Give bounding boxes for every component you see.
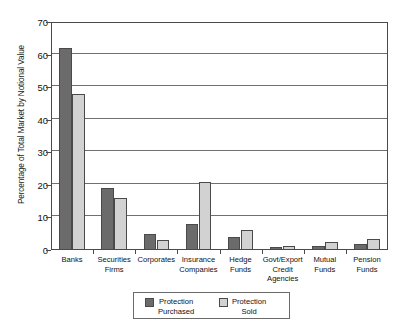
y-tick-label-40: 40 [18, 114, 48, 125]
x-category-label-line: Firms [87, 265, 141, 275]
x-tick-mark [177, 250, 178, 254]
bar [59, 48, 72, 250]
y-tick-label-0: 0 [18, 245, 48, 256]
bars-layer [51, 22, 388, 250]
legend-entry[interactable]: ProtectionPurchased [145, 297, 194, 316]
legend-label: ProtectionPurchased [158, 297, 194, 316]
bar [144, 234, 157, 250]
y-tick-label-60: 60 [18, 49, 48, 60]
bar [199, 182, 212, 250]
bar-group [144, 22, 170, 250]
y-tick-label-70: 70 [18, 17, 48, 28]
legend-swatch [145, 298, 154, 307]
bar-group [228, 22, 254, 250]
y-tick-label-10: 10 [18, 212, 48, 223]
bar [72, 94, 85, 250]
legend-label: ProtectionSold [232, 297, 266, 316]
bar [354, 244, 367, 251]
bar-group [59, 22, 85, 250]
legend-label-line: Purchased [158, 307, 194, 317]
y-tick-mark-0 [46, 250, 51, 251]
x-tick-mark [304, 250, 305, 254]
bar [241, 230, 254, 250]
bar-group [354, 22, 380, 250]
bar [228, 237, 241, 250]
bar [270, 247, 283, 250]
bar [367, 239, 380, 250]
x-category-label-line: Agencies [256, 274, 310, 284]
bar-group [312, 22, 338, 250]
bar-group [101, 22, 127, 250]
x-tick-mark [346, 250, 347, 254]
x-category-label-line: Funds [340, 265, 394, 275]
y-tick-label-20: 20 [18, 179, 48, 190]
bar-group [270, 22, 296, 250]
x-category-label-line: Pension [340, 255, 394, 265]
legend-label-line: Sold [232, 307, 266, 317]
bar [283, 246, 296, 250]
x-tick-mark [262, 250, 263, 254]
legend-entry[interactable]: ProtectionSold [219, 297, 266, 316]
x-tick-mark [93, 250, 94, 254]
legend-label-line: Protection [232, 297, 266, 307]
y-tick-label-30: 30 [18, 147, 48, 158]
bar-chart-figure: Percentage of Total Market by Notional V… [0, 0, 412, 333]
x-category-label: PensionFunds [340, 255, 394, 274]
y-tick-label-50: 50 [18, 82, 48, 93]
legend-label-line: Protection [158, 297, 194, 307]
bar [157, 240, 170, 250]
legend-swatch [219, 298, 228, 307]
x-tick-mark [220, 250, 221, 254]
x-tick-mark [135, 250, 136, 254]
bar [312, 246, 325, 250]
bar [186, 224, 199, 250]
chart-legend: ProtectionPurchasedProtectionSold [133, 292, 290, 319]
bar [325, 242, 338, 250]
bar [114, 198, 127, 250]
bar-group [186, 22, 212, 250]
bar [101, 188, 114, 250]
